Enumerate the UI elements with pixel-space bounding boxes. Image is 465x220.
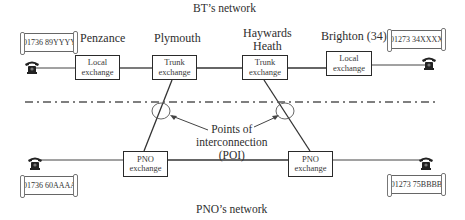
bt-network-label: BT’s network [193, 2, 256, 15]
poi-circle-left [152, 103, 170, 119]
phone-number-top-left: 01736 89YYYY [22, 33, 76, 52]
phone-number-bottom-right: 01273 75BBBB [389, 175, 444, 194]
place-brighton: Brighton (34) [321, 30, 387, 43]
telephone-icon [421, 55, 437, 71]
place-plymouth: Plymouth [154, 32, 201, 45]
plymouth-trunk-exchange: Trunk exchange [152, 55, 197, 80]
place-haywards-line2: Heath [243, 40, 292, 53]
haywards-trunk-exchange: Trunk exchange [242, 55, 288, 80]
poi-label: Points of interconnection (POI) [196, 123, 268, 162]
brighton-local-exchange: Local exchange [326, 51, 372, 76]
pno-exchange-right: PNO exchange [288, 151, 333, 177]
telephone-icon [418, 155, 434, 171]
phone-number-bottom-left: 01736 60AAAA [22, 176, 76, 195]
pno-network-label: PNO’s network [196, 203, 267, 216]
penzance-local-exchange: Local exchange [75, 55, 120, 80]
phone-number-top-right: 01273 34XXXX [389, 30, 444, 49]
telephone-icon [27, 155, 43, 171]
pno-exchange-left: PNO exchange [123, 151, 168, 177]
place-haywards-heath: Haywards Heath [243, 27, 292, 53]
place-penzance: Penzance [80, 32, 125, 45]
poi-circle-right [276, 103, 294, 119]
telephone-icon [24, 59, 40, 75]
